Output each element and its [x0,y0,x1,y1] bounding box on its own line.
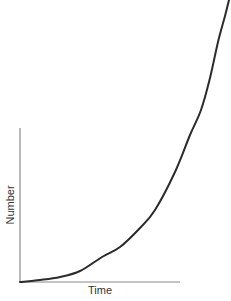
growth-chart [0,0,231,301]
x-axis-label: Time [80,284,120,296]
growth-curve [20,0,229,282]
y-axis-label: Number [4,180,16,230]
